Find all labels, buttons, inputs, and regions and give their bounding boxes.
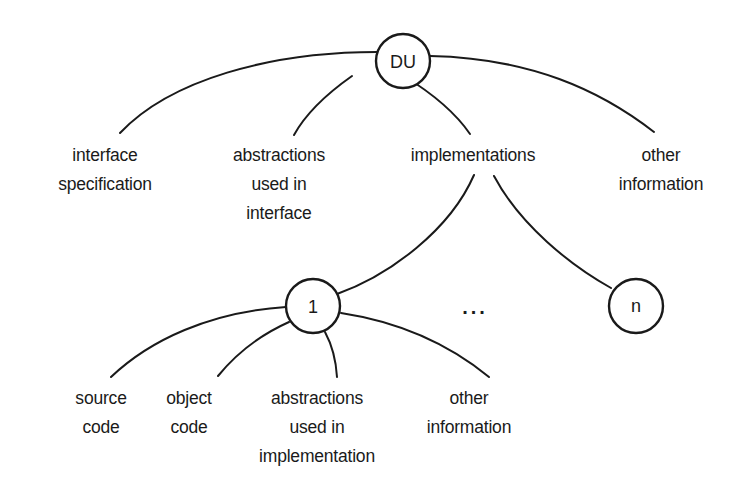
edge-du-other-information — [430, 56, 654, 132]
leaf-line: abstractions — [233, 141, 325, 170]
node-du-label: DU — [390, 52, 416, 72]
leaf-other-information-top: other information — [619, 141, 703, 199]
leaf-line: information — [619, 170, 703, 199]
edge-1-object-code — [218, 322, 289, 376]
leaf-line: source — [75, 384, 126, 413]
leaf-line: implementation — [259, 442, 375, 471]
node-n-label: n — [631, 296, 641, 316]
leaf-line: information — [427, 413, 511, 442]
ellipsis: ... — [462, 296, 488, 319]
leaf-object-code: object code — [166, 384, 212, 442]
leaf-line: other — [619, 141, 703, 170]
leaf-line: abstractions — [259, 384, 375, 413]
edge-implementations-n — [494, 176, 611, 288]
leaf-line: interface — [233, 199, 325, 228]
leaf-line: implementations — [411, 141, 535, 170]
edge-du-interface-specification — [120, 52, 377, 133]
leaf-source-code: source code — [75, 384, 126, 442]
edge-du-abstractions-interface — [294, 76, 352, 135]
leaf-interface-specification: interface specification — [58, 141, 152, 199]
leaf-line: other — [427, 384, 511, 413]
leaf-line: specification — [58, 170, 152, 199]
edge-implementations-1 — [337, 175, 474, 294]
leaf-other-information-bottom: other information — [427, 384, 511, 442]
leaf-line: interface — [58, 141, 152, 170]
leaf-line: code — [75, 413, 126, 442]
edge-1-other-information — [341, 313, 489, 377]
leaf-abstractions-used-in-interface: abstractions used in interface — [233, 141, 325, 228]
leaf-line: used in — [233, 170, 325, 199]
leaf-line: object — [166, 384, 212, 413]
leaf-abstractions-used-in-implementation: abstractions used in implementation — [259, 384, 375, 471]
edge-1-abstractions-implementation — [325, 332, 337, 377]
edge-1-source-code — [111, 307, 286, 377]
leaf-implementations: implementations — [411, 141, 535, 170]
leaf-line: code — [166, 413, 212, 442]
leaf-line: used in — [259, 413, 375, 442]
node-1-label: 1 — [308, 297, 318, 317]
